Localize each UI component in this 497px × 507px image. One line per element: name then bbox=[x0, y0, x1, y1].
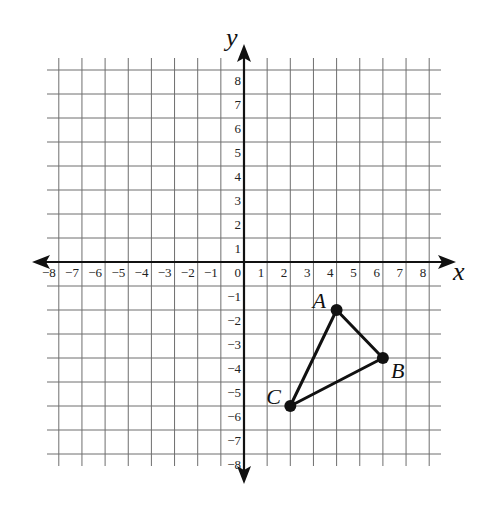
y-tick-label: 8 bbox=[235, 73, 242, 88]
coordinate-plane: x y −8−7−6−5−4−3−2−1012345678−8−7−6−5−4−… bbox=[0, 0, 497, 507]
y-tick-label: 1 bbox=[235, 241, 242, 256]
x-tick-label: 6 bbox=[373, 265, 380, 280]
x-tick-label: 8 bbox=[420, 265, 427, 280]
triangle-abc: ABC bbox=[266, 288, 404, 412]
y-tick-label: 4 bbox=[235, 169, 242, 184]
y-tick-label: −2 bbox=[227, 313, 241, 328]
point-label-b: B bbox=[391, 358, 404, 383]
x-tick-label: −1 bbox=[204, 265, 218, 280]
y-tick-label: 7 bbox=[235, 97, 242, 112]
point-b bbox=[377, 352, 389, 364]
x-tick-label: −3 bbox=[158, 265, 172, 280]
y-tick-label: 6 bbox=[235, 121, 242, 136]
y-tick-label: −1 bbox=[227, 289, 241, 304]
y-tick-label: 2 bbox=[235, 217, 242, 232]
x-axis-label: x bbox=[452, 257, 465, 286]
x-tick-label: −7 bbox=[65, 265, 79, 280]
y-tick-label: 5 bbox=[235, 145, 242, 160]
x-tick-label: 2 bbox=[281, 265, 288, 280]
point-label-c: C bbox=[266, 384, 281, 409]
x-tick-label: 3 bbox=[304, 265, 311, 280]
x-tick-label: 1 bbox=[258, 265, 265, 280]
y-tick-label: −5 bbox=[227, 385, 241, 400]
y-tick-label: 3 bbox=[235, 193, 242, 208]
axes: x y bbox=[32, 23, 465, 484]
y-tick-label: −6 bbox=[227, 409, 241, 424]
point-c bbox=[284, 400, 296, 412]
y-tick-label: −4 bbox=[227, 361, 241, 376]
x-tick-label: −2 bbox=[181, 265, 195, 280]
point-a bbox=[331, 304, 343, 316]
x-tick-label: −4 bbox=[135, 265, 149, 280]
x-tick-label: −6 bbox=[88, 265, 102, 280]
x-tick-label: 7 bbox=[397, 265, 404, 280]
tick-labels: −8−7−6−5−4−3−2−1012345678−8−7−6−5−4−3−2−… bbox=[42, 73, 426, 472]
x-tick-label: 5 bbox=[350, 265, 357, 280]
x-tick-label: 0 bbox=[235, 265, 242, 280]
y-axis-label: y bbox=[223, 23, 238, 52]
x-tick-label: 4 bbox=[327, 265, 334, 280]
y-tick-label: −8 bbox=[227, 457, 241, 472]
y-tick-label: −3 bbox=[227, 337, 241, 352]
y-tick-label: −7 bbox=[227, 433, 241, 448]
x-tick-label: −5 bbox=[111, 265, 125, 280]
point-label-a: A bbox=[311, 288, 327, 313]
x-tick-label: −8 bbox=[42, 265, 56, 280]
